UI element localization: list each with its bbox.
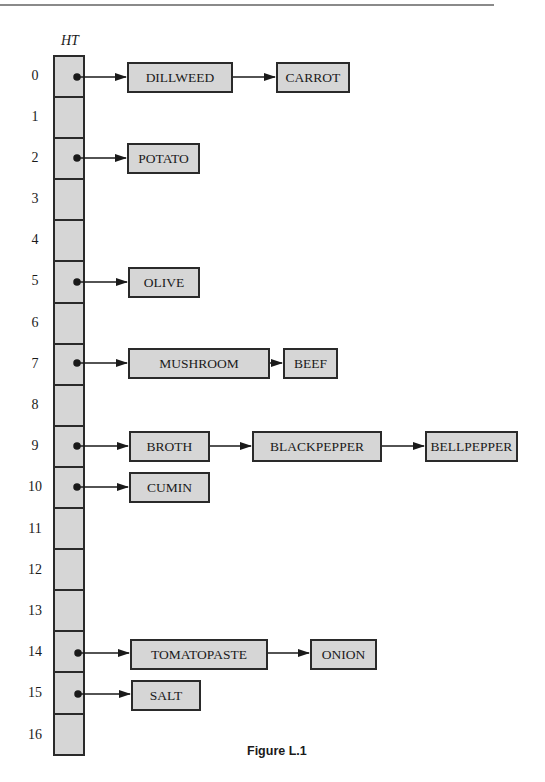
figure-caption: Figure L.1 — [247, 744, 307, 758]
pointer-arrows — [0, 0, 545, 782]
node-bellpepper: BELLPEPPER — [425, 431, 518, 462]
node-tomatopaste: TOMATOPASTE — [130, 639, 268, 670]
node-dillweed: DILLWEED — [127, 62, 233, 93]
node-cumin: CUMIN — [129, 472, 210, 503]
node-potato: POTATO — [127, 143, 200, 174]
node-mushroom: MUSHROOM — [128, 348, 270, 379]
node-carrot: CARROT — [276, 62, 350, 93]
node-broth: BROTH — [129, 431, 210, 462]
node-olive: OLIVE — [128, 267, 200, 298]
node-blackpepper: BLACKPEPPER — [252, 431, 382, 462]
node-beef: BEEF — [283, 348, 338, 379]
node-onion: ONION — [310, 639, 377, 670]
node-salt: SALT — [131, 680, 201, 711]
